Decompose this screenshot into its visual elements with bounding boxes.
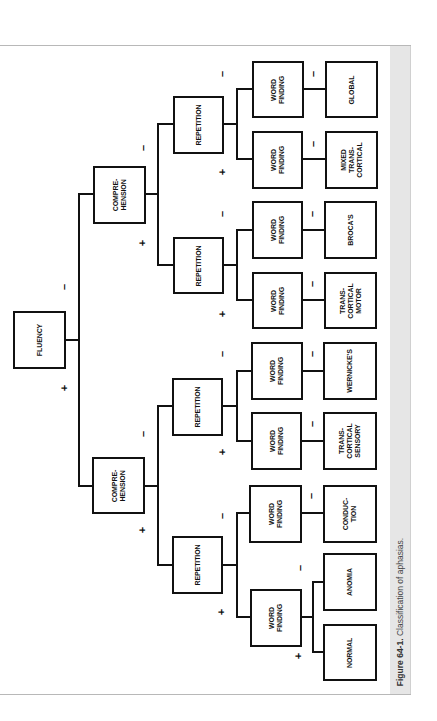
plus-sign: + bbox=[59, 385, 70, 391]
repetition-node: REPETITION bbox=[172, 536, 223, 594]
outcome-brocas: BROCA'S bbox=[324, 201, 377, 259]
outcome-label: CONDUC- TION bbox=[342, 498, 358, 530]
repetition-node: REPETITION bbox=[173, 96, 224, 154]
connector bbox=[302, 158, 325, 160]
connector bbox=[236, 229, 238, 301]
caption-number: Figure 64-1. bbox=[395, 638, 405, 686]
connector bbox=[157, 123, 173, 125]
repetition-node: REPETITION bbox=[173, 237, 224, 294]
connector bbox=[302, 229, 324, 231]
word-finding-node: WORD FINDING bbox=[251, 342, 303, 400]
connector bbox=[301, 512, 323, 514]
outcome-label: GLOBAL bbox=[348, 75, 356, 104]
plus-sign: + bbox=[217, 169, 228, 175]
outcome-wernickes: WERNICKE'S bbox=[323, 342, 377, 400]
connector bbox=[302, 370, 323, 372]
caption-text: Classification of aphasias. bbox=[395, 538, 405, 639]
repetition-label: REPETITION bbox=[194, 544, 202, 585]
word-finding-node: WORD FINDING bbox=[252, 61, 304, 118]
word-finding-label: WORD FINDING bbox=[269, 427, 285, 455]
connector bbox=[236, 513, 238, 618]
connector bbox=[236, 158, 252, 160]
repetition-label: REPETITION bbox=[195, 245, 203, 286]
minus-sign: – bbox=[306, 493, 317, 499]
connector bbox=[312, 581, 314, 653]
connector bbox=[157, 264, 173, 266]
comprehension-node-plus: COMPRE- HENSION bbox=[92, 457, 145, 514]
fluency-label: FLUENCY bbox=[36, 324, 44, 356]
connector bbox=[236, 89, 238, 160]
plus-sign: + bbox=[216, 609, 227, 615]
repetition-label: REPETITION bbox=[195, 104, 203, 145]
connector bbox=[78, 485, 93, 487]
minus-sign: – bbox=[307, 351, 318, 357]
outcome-transcortical-motor: TRANS- CORTICAL MOTOR bbox=[324, 272, 377, 329]
outcome-label: TRANS- CORTICAL MOTOR bbox=[339, 283, 363, 318]
outcome-anomia: ANOMIA bbox=[323, 553, 377, 611]
frame-bottom-border bbox=[0, 694, 411, 695]
outcome-label: ANOMIA bbox=[346, 568, 354, 596]
outcome-label: TRANS- CORTICAL SENSORY bbox=[338, 423, 362, 458]
outcome-normal: NORMAL bbox=[323, 624, 377, 681]
word-finding-label: WORD FINDING bbox=[270, 286, 286, 314]
word-finding-label: WORD FINDING bbox=[269, 357, 285, 385]
connector bbox=[157, 406, 159, 566]
minus-sign: – bbox=[138, 145, 149, 151]
word-finding-node: WORD FINDING bbox=[252, 131, 303, 189]
connector bbox=[236, 370, 251, 372]
connector bbox=[301, 440, 323, 442]
minus-sign: – bbox=[217, 351, 228, 357]
connector bbox=[78, 194, 80, 487]
minus-sign: – bbox=[308, 141, 319, 147]
comprehension-label: COMPRE- HENSION bbox=[111, 469, 127, 501]
word-finding-node: WORD FINDING bbox=[250, 589, 302, 647]
outcome-label: WERNICKE'S bbox=[346, 349, 354, 392]
minus-sign: – bbox=[138, 431, 149, 437]
connector bbox=[157, 564, 173, 566]
connector bbox=[312, 581, 323, 583]
connector bbox=[157, 124, 159, 266]
word-finding-node: WORD FINDING bbox=[252, 272, 303, 329]
minus-sign: – bbox=[307, 421, 318, 427]
connector bbox=[236, 299, 252, 301]
word-finding-node: WORD FINDING bbox=[252, 201, 303, 259]
connector bbox=[236, 512, 250, 514]
word-finding-label: WORD FINDING bbox=[268, 604, 284, 632]
word-finding-node: WORD FINDING bbox=[251, 412, 302, 470]
minus-sign: – bbox=[295, 565, 306, 571]
outcome-transcortical-sensory: TRANS- CORTICAL SENSORY bbox=[323, 412, 377, 470]
figure-caption: Figure 64-1. Classification of aphasias. bbox=[395, 538, 405, 686]
connector bbox=[302, 299, 324, 301]
minus-sign: – bbox=[217, 71, 228, 77]
repetition-node: REPETITION bbox=[172, 378, 223, 436]
connector bbox=[78, 193, 94, 195]
minus-sign: – bbox=[307, 281, 318, 287]
comprehension-node-minus: COMPRE- HENSION bbox=[93, 166, 146, 224]
outcome-label: NORMAL bbox=[346, 637, 354, 667]
connector bbox=[236, 88, 252, 90]
word-finding-label: WORD FINDING bbox=[270, 75, 286, 103]
plus-sign: + bbox=[293, 653, 304, 659]
minus-sign: – bbox=[217, 513, 228, 519]
repetition-label: REPETITION bbox=[194, 386, 202, 427]
connector bbox=[236, 370, 238, 442]
comprehension-label: COMPRE- HENSION bbox=[112, 179, 128, 211]
plus-sign: + bbox=[217, 449, 228, 455]
minus-sign: – bbox=[307, 211, 318, 217]
minus-sign: – bbox=[59, 284, 70, 290]
connector bbox=[236, 616, 250, 618]
outcome-mixed-transcortical: MIXED TRANS- CORTICAL bbox=[325, 131, 378, 189]
outcome-label: MIXED TRANS- CORTICAL bbox=[340, 142, 364, 177]
connector bbox=[312, 651, 323, 653]
minus-sign: – bbox=[308, 71, 319, 77]
connector bbox=[157, 405, 173, 407]
outcome-global: GLOBAL bbox=[325, 61, 378, 118]
word-finding-label: WORD FINDING bbox=[270, 216, 286, 244]
plus-sign: + bbox=[217, 311, 228, 317]
frame-top-border bbox=[0, 45, 411, 46]
plus-sign: + bbox=[137, 240, 148, 246]
connector bbox=[236, 440, 251, 442]
word-finding-label: WORD FINDING bbox=[268, 500, 284, 528]
minus-sign: – bbox=[217, 211, 228, 217]
outcome-label: BROCA'S bbox=[347, 214, 355, 245]
